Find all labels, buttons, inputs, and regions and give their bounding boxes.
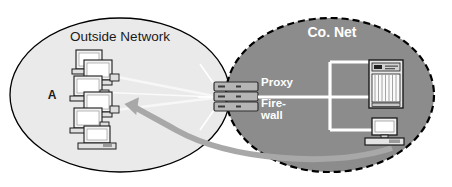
- outside-network-label: Outside Network: [70, 29, 170, 44]
- firewall-label-line2: wall: [260, 109, 283, 121]
- proxy-label: Proxy: [261, 76, 294, 88]
- outside-zone-marker: A: [48, 88, 57, 102]
- firewall-label-line1: Fire-: [261, 97, 286, 109]
- network-diagram: Outside Network A Co. Net Proxy Fire- wa…: [0, 0, 452, 187]
- diagram-canvas: Outside Network A Co. Net Proxy Fire- wa…: [0, 0, 452, 187]
- company-network-label: Co. Net: [308, 24, 357, 40]
- mainframe-server: [369, 60, 403, 108]
- client-computer: [78, 126, 116, 149]
- proxy-firewall-device: [214, 82, 258, 111]
